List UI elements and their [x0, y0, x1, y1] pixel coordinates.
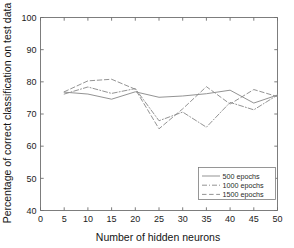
chart-legend[interactable]: 500 epochs1000 epochs1500 epochs	[199, 168, 276, 200]
y-tick-label: 90	[26, 45, 36, 55]
y-tick-label: 60	[26, 141, 36, 151]
y-tick-label: 40	[26, 206, 36, 216]
legend-label-2: 1500 epochs	[223, 190, 265, 199]
legend-label-1: 1000 epochs	[223, 181, 265, 190]
x-tick-label: 40	[225, 214, 235, 224]
y-axis-title: Percentage of correct classification on …	[1, 3, 13, 224]
x-tick-label: 5	[62, 214, 67, 224]
y-tick-label: 70	[26, 109, 36, 119]
x-tick-label: 10	[83, 214, 93, 224]
x-tick-label: 35	[201, 214, 211, 224]
x-tick-label: 25	[154, 214, 164, 224]
line-chart: 405060708090100 05101520253035404550 Num…	[0, 0, 294, 248]
y-tick-label: 80	[26, 77, 36, 87]
x-tick-label: 45	[249, 214, 259, 224]
x-tick-label: 30	[178, 214, 188, 224]
x-tick-label: 50	[272, 214, 282, 224]
legend-label-0: 500 epochs	[223, 172, 261, 181]
x-axis-title: Number of hidden neurons	[96, 231, 220, 243]
x-tick-label: 20	[130, 214, 140, 224]
x-tick-label: 0	[38, 214, 43, 224]
y-tick-label: 100	[21, 13, 36, 23]
chart-figure: 405060708090100 05101520253035404550 Num…	[0, 0, 294, 248]
x-tick-label: 15	[107, 214, 117, 224]
y-tick-label: 50	[26, 174, 36, 184]
